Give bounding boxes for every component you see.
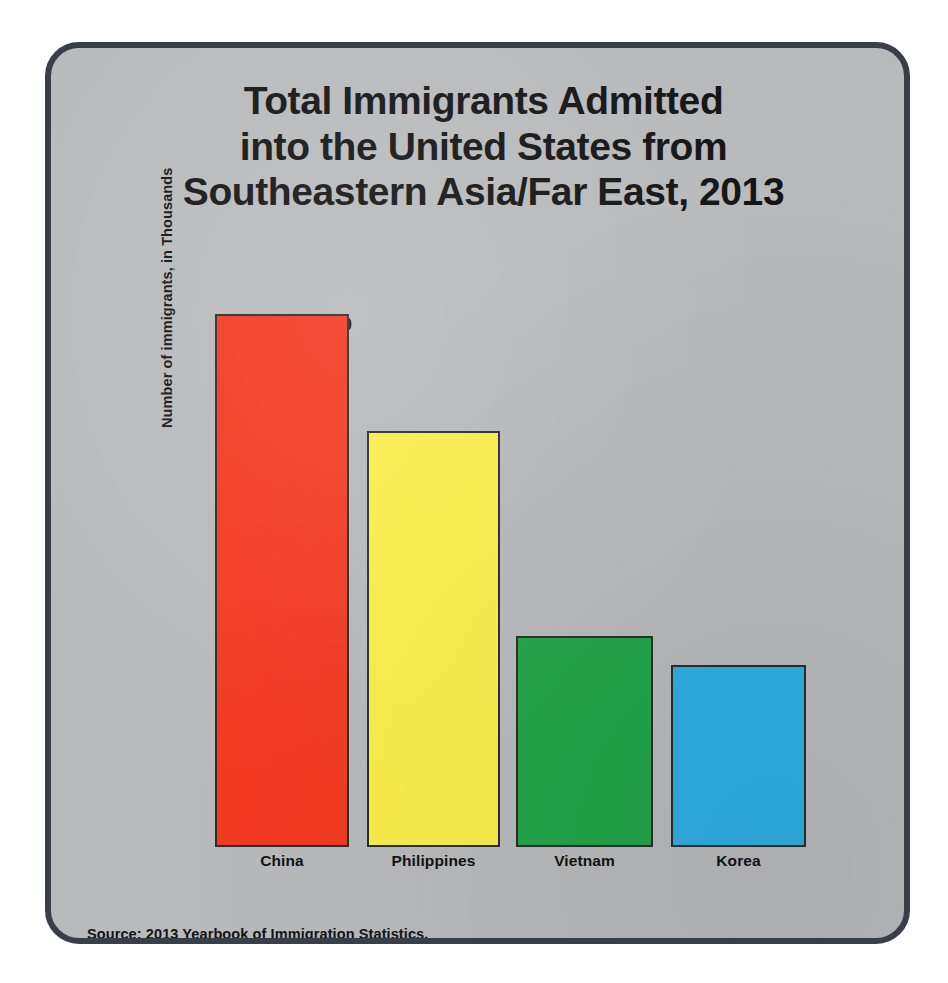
- bar-category-label-china: China: [215, 852, 349, 870]
- bar-category-label-korea: Korea: [671, 852, 806, 870]
- bar-vietnam[interactable]: [516, 636, 653, 847]
- bar-chart-plot-area: Number of immigrants, in Thousands 68,41…: [51, 48, 910, 944]
- bar-category-label-vietnam: Vietnam: [516, 852, 653, 870]
- bar-category-label-philippines: Philippines: [367, 852, 500, 870]
- bar-korea[interactable]: [671, 665, 806, 847]
- chart-poster: Total Immigrants Admitted into the Unite…: [45, 42, 910, 944]
- bar-philippines[interactable]: [367, 431, 500, 847]
- y-axis-label: Number of immigrants, in Thousands: [159, 128, 181, 428]
- bar-china[interactable]: [215, 314, 349, 847]
- source-note: Source: 2013 Yearbook of Immigration Sta…: [87, 926, 428, 942]
